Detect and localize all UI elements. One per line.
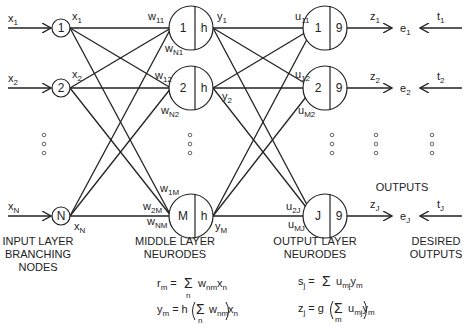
- formula-s-j: sj= Σ umjym: [298, 273, 363, 290]
- svg-text:w12: w12: [154, 69, 172, 84]
- input-labels: x1 x2 xN: [8, 12, 20, 215]
- svg-text:x1: x1: [72, 10, 83, 25]
- svg-text:ym=h: ym=h: [157, 303, 188, 318]
- svg-text:OUTPUTS: OUTPUTS: [410, 248, 463, 260]
- svg-text:h: h: [201, 21, 208, 35]
- svg-text:zj=g: zj=g: [298, 302, 324, 317]
- output-neuron-1: 1 9: [303, 6, 347, 50]
- svg-text:h: h: [201, 209, 208, 223]
- svg-text:m: m: [335, 315, 342, 324]
- formula-z-j: zj=g Σ m umjym: [298, 300, 375, 324]
- input-layer-caption: INPUT LAYER BRANCHING NODES: [2, 235, 73, 273]
- outputs-caption: OUTPUTS: [376, 181, 429, 193]
- formula-r-m: rm= Σ n wnmxn: [157, 275, 227, 300]
- input-node-1: 1: [52, 19, 70, 37]
- svg-text:u11: u11: [295, 10, 310, 25]
- svg-text:NEURODES: NEURODES: [284, 248, 346, 260]
- svg-text:NEURODES: NEURODES: [144, 248, 206, 260]
- svg-text:n: n: [186, 291, 190, 300]
- svg-text:1: 1: [315, 21, 322, 35]
- svg-text:NODES: NODES: [18, 261, 57, 273]
- middle-to-output-connections: [213, 28, 313, 216]
- svg-text:tJ: tJ: [437, 198, 444, 213]
- svg-text:z2: z2: [370, 70, 381, 85]
- middle-neuron-2: 2 h: [169, 66, 213, 110]
- svg-text:2: 2: [180, 81, 187, 95]
- svg-text:u12: u12: [295, 68, 311, 83]
- svg-text:rm=: rm=: [157, 277, 177, 292]
- svg-text:MIDDLE LAYER: MIDDLE LAYER: [135, 235, 215, 247]
- svg-text:t1: t1: [437, 10, 445, 25]
- svg-text:y1: y1: [217, 10, 228, 25]
- svg-text:h: h: [201, 81, 208, 95]
- svg-text:w1M: w1M: [159, 182, 179, 197]
- svg-text:wnmxn: wnmxn: [197, 277, 227, 292]
- svg-text:wNM: wNM: [146, 215, 168, 230]
- middle-neuron-m: M h: [169, 194, 213, 238]
- input-node-2: 2: [52, 79, 70, 97]
- svg-text:zJ: zJ: [370, 198, 380, 213]
- svg-text:wN2: wN2: [160, 104, 180, 119]
- svg-text:umjym: umjym: [336, 275, 363, 290]
- formula-y-m: ym=h Σ n wnmxn: [157, 301, 238, 325]
- svg-text:eJ: eJ: [400, 210, 410, 225]
- input-node-n: N: [52, 207, 70, 225]
- svg-text:1: 1: [58, 21, 65, 35]
- svg-text:M: M: [178, 209, 188, 223]
- svg-text:xN: xN: [74, 220, 86, 235]
- ellipsis-dots: [42, 133, 434, 155]
- desired-outputs-caption: DESIRED OUTPUTS: [410, 235, 463, 260]
- svg-text:umjym: umjym: [348, 302, 375, 317]
- output-neuron-j: J 9: [303, 194, 347, 238]
- svg-text:t2: t2: [437, 70, 445, 85]
- svg-text:BRANCHING: BRANCHING: [5, 248, 71, 260]
- svg-text:9: 9: [336, 81, 343, 95]
- svg-text:x1: x1: [8, 12, 19, 27]
- middle-layer-caption: MIDDLE LAYER NEURODES: [135, 235, 215, 260]
- svg-text:DESIRED: DESIRED: [412, 235, 461, 247]
- svg-text:xN: xN: [8, 200, 20, 215]
- svg-text:u2J: u2J: [286, 200, 301, 215]
- svg-text:x2: x2: [72, 68, 83, 83]
- svg-text:e1: e1: [400, 22, 411, 37]
- svg-text:sj=: sj=: [298, 275, 315, 290]
- svg-text:J: J: [315, 209, 321, 223]
- svg-text:INPUT LAYER: INPUT LAYER: [2, 235, 73, 247]
- svg-text:z1: z1: [370, 10, 381, 25]
- svg-text:e2: e2: [400, 82, 411, 97]
- svg-text:Σ: Σ: [196, 301, 205, 317]
- input-to-middle-connections: [70, 28, 171, 216]
- output-neuron-2: 2 9: [303, 66, 347, 110]
- output-layer-caption: OUTPUT LAYER NEURODES: [273, 235, 356, 260]
- svg-text:wnmxn: wnmxn: [208, 303, 238, 318]
- svg-text:2: 2: [315, 81, 322, 95]
- svg-text:OUTPUT LAYER: OUTPUT LAYER: [273, 235, 356, 247]
- svg-text:2: 2: [58, 81, 65, 95]
- svg-text:uMJ: uMJ: [288, 218, 305, 233]
- middle-neuron-1: 1 h: [169, 6, 213, 50]
- svg-text:9: 9: [336, 21, 343, 35]
- neural-network-diagram: 1 2 N 1 h 2 h M h 1 9 2 9: [0, 0, 467, 328]
- svg-text:1: 1: [180, 21, 187, 35]
- svg-text:N: N: [57, 209, 66, 223]
- svg-text:w11: w11: [147, 10, 165, 25]
- svg-text:y2: y2: [222, 90, 233, 105]
- svg-text:x2: x2: [8, 72, 19, 87]
- svg-text:Σ: Σ: [334, 300, 343, 316]
- svg-text:n: n: [198, 316, 202, 325]
- input-arrows: [8, 28, 51, 216]
- svg-text:Σ: Σ: [184, 275, 193, 291]
- svg-text:Σ: Σ: [322, 273, 331, 289]
- svg-text:yM: yM: [215, 220, 228, 235]
- svg-text:9: 9: [336, 209, 343, 223]
